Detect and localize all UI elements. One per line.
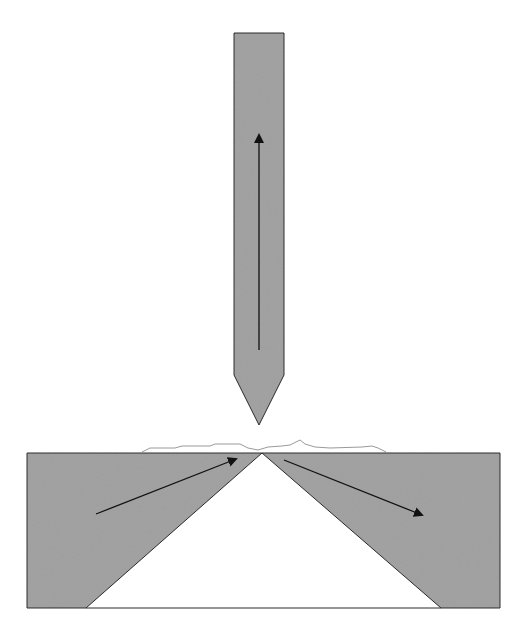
surface-profile — [142, 440, 386, 452]
probe — [234, 33, 284, 425]
block-body — [27, 453, 500, 608]
diagram-canvas — [0, 0, 532, 638]
block — [27, 453, 500, 608]
